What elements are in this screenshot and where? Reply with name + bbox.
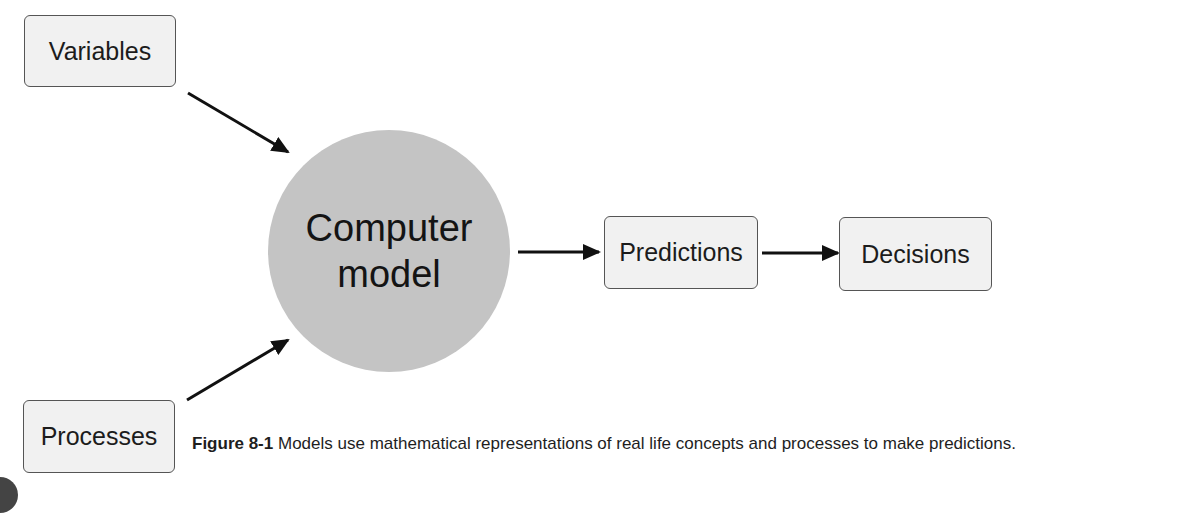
caption-text: Models use mathematical representations …: [273, 434, 1016, 453]
model-label-line1: Computer: [306, 205, 473, 251]
model-label-line2: model: [337, 251, 441, 297]
processes-label: Processes: [41, 422, 158, 451]
figure-number: Figure 8-1: [192, 434, 273, 453]
arrow-processes-to-model: [187, 340, 288, 400]
decisions-node: Decisions: [839, 217, 992, 291]
variables-node: Variables: [24, 15, 176, 87]
decisions-label: Decisions: [861, 240, 969, 269]
processes-node: Processes: [23, 400, 175, 473]
figure-caption: Figure 8-1 Models use mathematical repre…: [192, 434, 1016, 454]
arrow-variables-to-model: [188, 93, 288, 152]
predictions-node: Predictions: [604, 216, 758, 289]
computer-model-node: Computer model: [268, 130, 510, 372]
predictions-label: Predictions: [619, 238, 743, 267]
variables-label: Variables: [49, 37, 151, 66]
